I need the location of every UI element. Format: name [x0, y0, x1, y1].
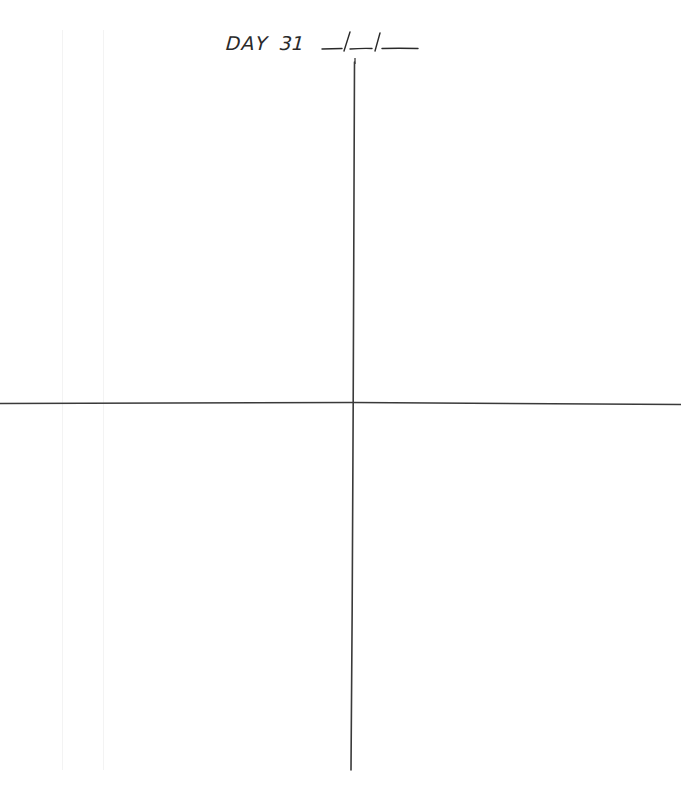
journal-page: DAY 31	[0, 0, 681, 786]
quadrant-bottom-left[interactable]	[0, 405, 352, 770]
quadrant-top-left[interactable]	[0, 60, 352, 402]
day-label: DAY	[225, 32, 269, 54]
date-blank-field[interactable]	[320, 28, 420, 54]
page-header: DAY 31	[226, 20, 304, 54]
quadrant-top-right[interactable]	[355, 60, 681, 402]
quadrant-bottom-right[interactable]	[355, 405, 681, 770]
day-number: 31	[279, 32, 305, 54]
